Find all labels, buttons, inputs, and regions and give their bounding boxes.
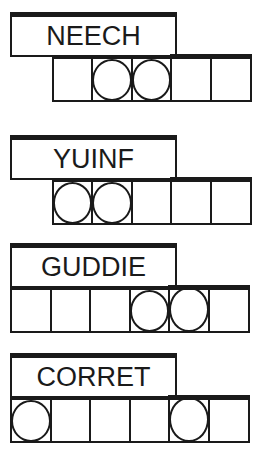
- circle-marker-icon: [92, 182, 132, 224]
- circle-marker-icon: [53, 182, 93, 224]
- answer-cell-3[interactable]: [89, 398, 131, 443]
- answer-cell-3[interactable]: [89, 288, 131, 333]
- answer-cell-5[interactable]: [168, 395, 210, 443]
- answer-cell-2[interactable]: [50, 398, 92, 443]
- answer-cells: [52, 57, 252, 102]
- circle-marker-icon: [11, 400, 51, 442]
- answer-cell-5[interactable]: [210, 54, 252, 102]
- answer-cell-1[interactable]: [52, 180, 94, 225]
- jumble-word-2: YUINF: [0, 135, 277, 235]
- answer-cell-2[interactable]: [91, 57, 133, 102]
- jumble-word-4: CORRET: [0, 353, 277, 453]
- answer-cell-4[interactable]: [170, 177, 212, 225]
- scrambled-word: NEECH: [10, 12, 177, 57]
- scrambled-word: GUDDIE: [10, 243, 177, 288]
- answer-cell-1[interactable]: [10, 398, 52, 443]
- circle-marker-icon: [92, 59, 132, 101]
- circle-marker-icon: [169, 287, 209, 332]
- answer-cell-6[interactable]: [208, 285, 250, 333]
- jumble-word-3: GUDDIE: [0, 243, 277, 343]
- answer-cell-4[interactable]: [170, 54, 212, 102]
- circle-marker-icon: [132, 59, 172, 101]
- answer-cell-3[interactable]: [131, 180, 173, 225]
- answer-cell-2[interactable]: [50, 288, 92, 333]
- answer-cell-4[interactable]: [129, 398, 171, 443]
- answer-cells: [10, 288, 250, 333]
- answer-cell-1[interactable]: [10, 288, 52, 333]
- answer-cell-5[interactable]: [168, 285, 210, 333]
- answer-cells: [52, 180, 252, 225]
- answer-cell-6[interactable]: [208, 395, 250, 443]
- answer-cells: [10, 398, 250, 443]
- answer-cell-4[interactable]: [129, 288, 171, 333]
- circle-marker-icon: [169, 397, 209, 442]
- circle-marker-icon: [130, 290, 170, 332]
- answer-cell-3[interactable]: [131, 57, 173, 102]
- answer-cell-2[interactable]: [91, 180, 133, 225]
- scrambled-word: CORRET: [10, 353, 177, 398]
- answer-cell-5[interactable]: [210, 177, 252, 225]
- scrambled-word: YUINF: [10, 135, 177, 180]
- answer-cell-1[interactable]: [52, 57, 94, 102]
- jumble-word-1: NEECH: [0, 12, 277, 112]
